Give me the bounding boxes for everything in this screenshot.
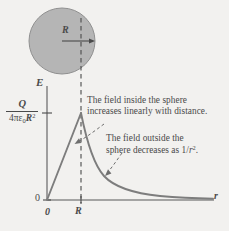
- denominator-exponent: 2: [32, 112, 35, 119]
- annotation-outside-sphere: The field outside the sphere decreases a…: [106, 133, 198, 155]
- annotation-outside-text: sphere decreases as 1/: [106, 145, 189, 155]
- field-curve-inside: [47, 113, 81, 200]
- fraction-denominator: 4πε0R2: [6, 112, 38, 124]
- annotation-outside-period: .: [196, 145, 198, 155]
- annotation-inside-sphere: The field inside the sphere increases li…: [87, 95, 207, 116]
- x-axis-origin-label: 0: [45, 206, 50, 218]
- y-axis-label: E: [36, 76, 43, 89]
- field-curve-outside: [81, 113, 213, 199]
- annotation-inside-line-2: increases linearly with distance.: [87, 106, 207, 117]
- y-axis-origin-label: 0: [35, 192, 40, 204]
- x-axis-label: r: [214, 190, 218, 202]
- annotation-outside-line-2: sphere decreases as 1/r2.: [106, 144, 198, 156]
- leader-line-outside: [105, 153, 122, 176]
- annotation-outside-line-1: The field outside the: [106, 133, 198, 144]
- denominator-prefix: 4π: [9, 113, 19, 123]
- fraction-numerator: Q: [6, 98, 38, 110]
- electric-field-sphere-figure: R E r 0 0 R Q 4πε0R2 The field inside th…: [0, 0, 229, 231]
- y-axis-value-label: Q 4πε0R2: [6, 98, 38, 124]
- sphere-radius-label: R: [62, 24, 69, 36]
- leader-line-inside: [75, 124, 105, 144]
- annotation-inside-line-1: The field inside the sphere: [87, 95, 207, 106]
- x-axis-tick-label-R: R: [75, 205, 82, 217]
